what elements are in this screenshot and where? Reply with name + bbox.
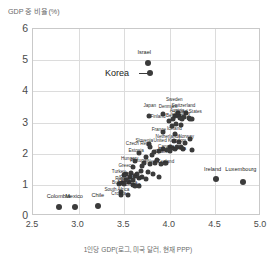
x-axis-title: 1인당 GDP(로그, 미국 달러, 현재 PPP) — [0, 244, 276, 254]
data-point — [151, 171, 156, 176]
point-label: Korea — [105, 69, 129, 78]
x-tick-label: 5.0 — [254, 220, 267, 229]
data-point — [56, 204, 62, 210]
point-label: Luxembourg — [225, 168, 256, 174]
point-label: Mexico — [65, 194, 83, 200]
data-point — [169, 123, 174, 128]
y-tick-label: 2 — [6, 147, 28, 158]
point-label: Bulgaria — [112, 181, 129, 186]
x-tick-label: 3.5 — [117, 220, 130, 229]
point-label: Greece — [118, 163, 133, 168]
gridline-vertical — [215, 29, 216, 214]
data-point — [240, 179, 246, 185]
gridline-vertical — [79, 29, 80, 214]
gridline-horizontal — [33, 123, 259, 124]
point-label: Czech Rep. — [126, 142, 150, 147]
y-tick-label: 1 — [6, 179, 28, 190]
point-label: Spain — [155, 150, 167, 155]
point-label: Belgium — [166, 113, 183, 118]
point-label: Ireland — [204, 167, 221, 173]
data-point — [95, 203, 101, 209]
data-point — [145, 60, 151, 66]
point-label: Sweden — [166, 98, 183, 103]
point-label: Estonia — [128, 148, 143, 153]
point-label: New Zealand — [147, 160, 174, 165]
x-tick-label: 2.5 — [26, 220, 39, 229]
point-label: Japan — [143, 104, 156, 109]
point-label: France — [152, 128, 166, 133]
gridline-horizontal — [33, 91, 259, 92]
x-tick-label: 3.0 — [71, 220, 84, 229]
data-point — [145, 170, 150, 175]
y-axis-title: GDP 중 비율(%) — [8, 6, 60, 16]
x-tick-label: 4.5 — [208, 220, 221, 229]
point-label: Israel — [137, 51, 151, 57]
y-tick-label: 3 — [6, 116, 28, 127]
leader-line — [139, 73, 150, 74]
y-tick-label: 5 — [6, 54, 28, 65]
point-label: Chile — [91, 193, 104, 199]
gridline-horizontal — [33, 185, 259, 186]
point-label: United Kingdom — [153, 139, 186, 144]
scatter-chart: GDP 중 비율(%) IsraelKoreaSwedenJapanDenmar… — [0, 0, 276, 263]
data-point — [189, 147, 194, 152]
data-point — [149, 153, 154, 158]
y-tick-label: 0 — [6, 210, 28, 221]
data-point — [156, 175, 161, 180]
x-tick-label: 4.0 — [163, 220, 176, 229]
point-label: Finland — [150, 115, 165, 120]
data-point — [187, 117, 192, 122]
data-point — [144, 176, 149, 181]
plot-area: IsraelKoreaSwedenJapanDenmarkSwitzerland… — [32, 28, 260, 215]
point-label: Croatia — [111, 191, 126, 196]
y-tick-label: 4 — [6, 85, 28, 96]
point-label: Hungary — [121, 157, 138, 162]
y-tick-label: 6 — [6, 23, 28, 34]
data-point — [72, 204, 78, 210]
data-point — [213, 176, 219, 182]
